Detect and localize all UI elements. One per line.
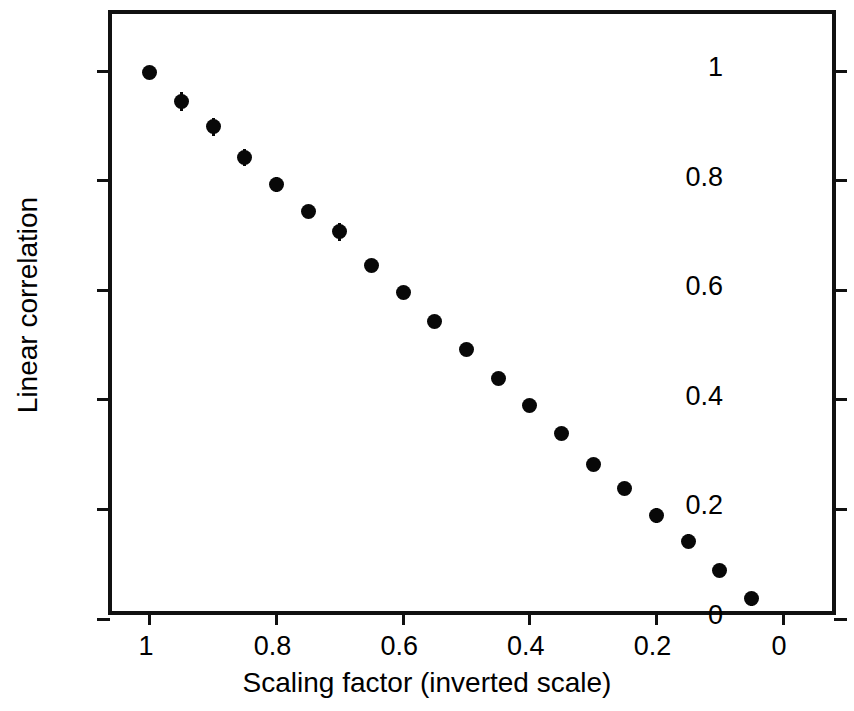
y-axis-tick-label: 0.4 <box>685 382 723 409</box>
y-axis-tick <box>97 618 110 621</box>
x-axis-tick <box>528 611 531 625</box>
x-axis-tick <box>782 611 785 625</box>
y-axis-tick <box>97 70 110 73</box>
data-point-marker <box>554 426 569 441</box>
x-axis-tick <box>402 611 405 625</box>
plot-area <box>112 14 832 611</box>
data-point-marker <box>237 150 252 165</box>
x-axis-tick <box>148 611 151 625</box>
data-point-marker <box>649 508 664 523</box>
y-axis-tick <box>97 508 110 511</box>
data-point-marker <box>522 398 537 413</box>
data-point-marker <box>364 258 379 273</box>
data-point-marker <box>269 177 284 192</box>
y-axis-tick <box>97 398 110 401</box>
y-axis-tick-label: 0.2 <box>685 492 723 519</box>
x-axis-tick-label: 0.8 <box>254 633 292 660</box>
y-axis-tick-label: 1 <box>708 54 723 81</box>
data-point-marker <box>142 65 157 80</box>
y-axis-tick-right <box>834 289 847 292</box>
x-axis-tick-label: 1 <box>138 633 153 660</box>
y-axis-tick-label: 0 <box>708 602 723 629</box>
y-axis-tick-right <box>834 179 847 182</box>
x-axis-tick <box>655 611 658 625</box>
data-point-marker <box>174 94 189 109</box>
x-axis-title: Scaling factor (inverted scale) <box>0 668 854 698</box>
data-point-marker <box>332 224 347 239</box>
data-point-marker <box>681 534 696 549</box>
y-axis-title: Linear correlation <box>13 45 43 565</box>
data-point-marker <box>206 119 221 134</box>
x-axis-tick-label: 0.2 <box>634 633 672 660</box>
data-point-marker <box>712 563 727 578</box>
data-point-marker <box>586 457 601 472</box>
data-point-marker <box>617 481 632 496</box>
data-point-marker <box>491 371 506 386</box>
x-axis-tick-label: 0.4 <box>507 633 545 660</box>
data-point-marker <box>744 591 759 606</box>
y-axis-tick <box>97 289 110 292</box>
figure-scatter-chart: 00.20.40.60.81 10.80.60.40.20 Scaling fa… <box>0 0 854 711</box>
y-axis-tick-right <box>834 398 847 401</box>
y-axis-tick-right <box>834 618 847 621</box>
x-axis-tick-label: 0.6 <box>380 633 418 660</box>
y-axis-tick-right <box>834 508 847 511</box>
y-axis-tick-label: 0.6 <box>685 273 723 300</box>
y-axis-tick <box>97 179 110 182</box>
data-point-marker <box>427 314 442 329</box>
x-axis-tick-label: 0 <box>772 633 787 660</box>
x-axis-tick <box>275 611 278 625</box>
data-point-marker <box>459 342 474 357</box>
data-point-marker <box>301 204 316 219</box>
y-axis-tick-label: 0.8 <box>685 163 723 190</box>
y-axis-tick-right <box>834 70 847 73</box>
plot-frame <box>108 10 836 615</box>
data-point-marker <box>396 285 411 300</box>
